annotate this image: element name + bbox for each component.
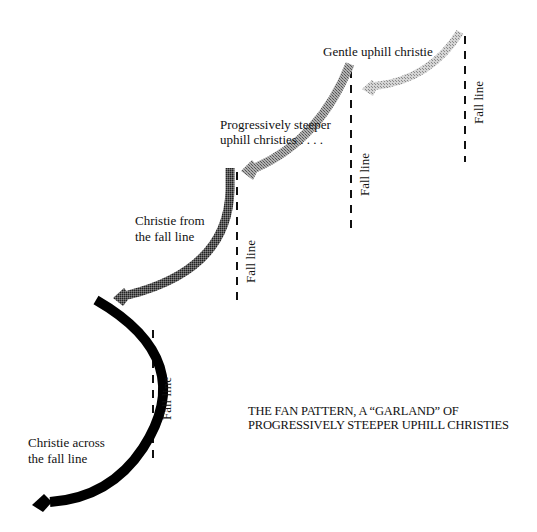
fall-line-label-from: Fall line	[243, 240, 259, 283]
label-steeper-line1: Progressively steeper	[220, 117, 331, 132]
label-from-line1: Christie from	[135, 213, 205, 228]
arrowhead-icon	[32, 494, 52, 512]
turn-arc-across-fall-line	[32, 300, 163, 512]
label-across-line2: the fall line	[28, 451, 87, 466]
fall-line-label-steeper: Fall line	[357, 153, 373, 196]
diagram-title-line1: THE FAN PATTERN, A “GARLAND” OF	[248, 404, 458, 418]
label-across-line1: Christie across	[28, 435, 105, 450]
turn-arc-gentle	[362, 32, 460, 96]
fall-line-label-across: Fall line	[159, 377, 175, 420]
label-from-line2: the fall line	[135, 229, 194, 244]
fan-pattern-diagram: Fall line Fall line Fall line Fall line …	[0, 0, 537, 532]
fall-line-label-gentle: Fall line	[471, 81, 487, 124]
diagram-title-line2: PROGRESSIVELY STEEPER UPHILL CHRISTIES	[248, 418, 509, 432]
label-steeper-line2: uphill christies . . . .	[220, 132, 323, 147]
label-gentle: Gentle uphill christie	[323, 44, 433, 59]
